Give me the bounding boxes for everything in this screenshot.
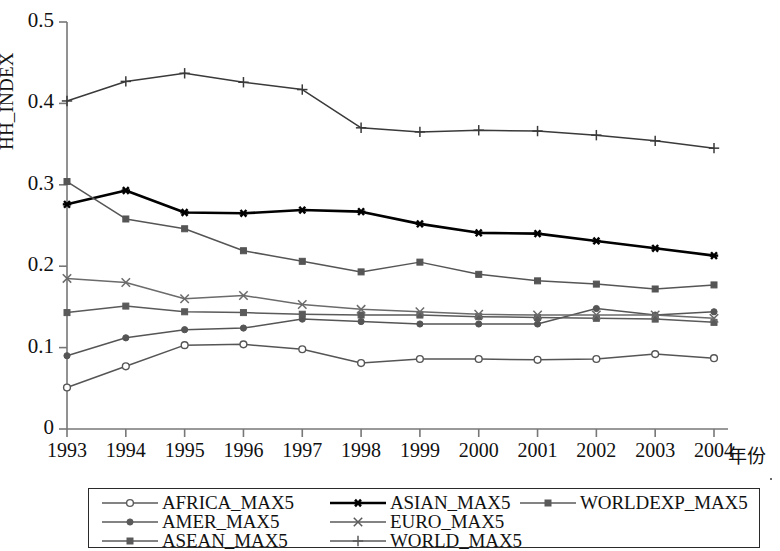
chart-legend: AFRICA_MAX5ASIAN_MAX5WORLDEXP_MAX5AMER_M… bbox=[88, 488, 760, 548]
series-world-max5 bbox=[62, 68, 719, 153]
marker-square-filled-icon bbox=[593, 281, 599, 287]
marker-square-filled-icon bbox=[123, 303, 129, 309]
marker-circle-filled-icon bbox=[240, 325, 246, 331]
marker-square-filled-icon bbox=[64, 310, 70, 316]
marker-circle-open-icon bbox=[122, 363, 129, 370]
marker-circle-open-icon bbox=[299, 346, 306, 353]
marker-circle-open-icon bbox=[534, 356, 541, 363]
marker-circle-open-icon bbox=[652, 351, 659, 358]
y-axis-tick-label: 0.3 bbox=[8, 171, 54, 196]
marker-circle-filled-icon bbox=[64, 353, 70, 359]
legend-item-euro-max5[interactable]: EURO_MAX5 bbox=[329, 512, 504, 531]
legend-marker-plus-icon bbox=[329, 533, 387, 548]
marker-circle-filled-icon bbox=[182, 327, 188, 333]
legend-marker-square-filled-icon bbox=[101, 533, 159, 548]
series-africa-max5 bbox=[64, 341, 718, 391]
legend-item-africa-max5[interactable]: AFRICA_MAX5 bbox=[101, 493, 294, 512]
marker-circle-filled-icon bbox=[534, 321, 540, 327]
marker-square-filled-icon bbox=[240, 248, 246, 254]
series-asian-max5 bbox=[63, 187, 718, 259]
legend-marker-square-filled-icon bbox=[519, 495, 577, 510]
legend-label: WORLDEXP_MAX5 bbox=[580, 492, 748, 514]
marker-circle-open-icon bbox=[417, 356, 424, 363]
marker-square-filled-icon bbox=[358, 312, 364, 318]
x-axis-title: 年份 bbox=[728, 441, 766, 468]
marker-circle-filled-icon bbox=[123, 335, 129, 341]
marker-circle-filled-icon bbox=[476, 321, 482, 327]
legend-item-worldexp-max5[interactable]: WORLDEXP_MAX5 bbox=[519, 493, 748, 512]
marker-circle-open-icon bbox=[475, 356, 482, 363]
legend-label: WORLD_MAX5 bbox=[390, 530, 522, 551]
marker-circle-open-icon bbox=[181, 342, 188, 349]
legend-item-world-max5[interactable]: WORLD_MAX5 bbox=[329, 531, 522, 550]
series-line bbox=[67, 73, 714, 148]
marker-square-filled-icon bbox=[64, 179, 70, 185]
marker-circle-open-icon bbox=[240, 341, 247, 348]
marker-square-filled-icon bbox=[182, 309, 188, 315]
marker-square-filled-icon bbox=[545, 500, 551, 506]
marker-square-filled-icon bbox=[652, 286, 658, 292]
marker-square-filled-icon bbox=[711, 282, 717, 288]
marker-circle-open-icon bbox=[358, 360, 365, 367]
legend-marker-x-cross-icon bbox=[329, 514, 387, 529]
marker-square-filled-icon bbox=[299, 258, 305, 264]
marker-square-filled-icon bbox=[476, 271, 482, 277]
marker-square-filled-icon bbox=[182, 226, 188, 232]
scan-speck bbox=[770, 478, 772, 480]
marker-circle-open-icon bbox=[64, 384, 71, 391]
marker-circle-filled-icon bbox=[417, 321, 423, 327]
legend-marker-circle-open-icon bbox=[101, 495, 159, 510]
series-line bbox=[67, 306, 714, 322]
legend-marker-circle-filled-icon bbox=[101, 514, 159, 529]
series-line bbox=[67, 278, 714, 318]
marker-circle-open-icon bbox=[711, 355, 718, 362]
marker-circle-open-icon bbox=[127, 500, 134, 507]
marker-square-filled-icon bbox=[123, 216, 129, 222]
legend-label: ASEAN_MAX5 bbox=[162, 530, 288, 551]
y-axis-tick-label: 0.5 bbox=[8, 8, 54, 33]
marker-square-filled-icon bbox=[417, 259, 423, 265]
marker-circle-open-icon bbox=[593, 356, 600, 363]
marker-square-filled-icon bbox=[127, 538, 133, 544]
y-axis-tick-label: 0.1 bbox=[8, 334, 54, 359]
chart-figure: HH_INDEX 0.50.40.30.20.10 19931994199519… bbox=[0, 0, 780, 551]
line-chart-plot-area bbox=[0, 0, 780, 470]
marker-square-filled-icon bbox=[535, 278, 541, 284]
y-axis-tick-label: 0.2 bbox=[8, 252, 54, 277]
series-amer-max5 bbox=[64, 305, 717, 358]
y-axis-tick-label: 0 bbox=[8, 415, 54, 440]
marker-circle-filled-icon bbox=[127, 519, 133, 525]
legend-item-asean-max5[interactable]: ASEAN_MAX5 bbox=[101, 531, 288, 550]
marker-square-filled-icon bbox=[358, 269, 364, 275]
series-line bbox=[67, 344, 714, 387]
marker-square-filled-icon bbox=[299, 311, 305, 317]
series-worldexp-max5 bbox=[64, 179, 717, 292]
legend-item-amer-max5[interactable]: AMER_MAX5 bbox=[101, 512, 279, 531]
marker-circle-filled-icon bbox=[358, 318, 364, 324]
series-line bbox=[67, 190, 714, 255]
series-line bbox=[67, 182, 714, 289]
marker-circle-filled-icon bbox=[593, 305, 599, 311]
legend-marker-asterisk-icon bbox=[329, 495, 387, 510]
y-axis-tick-label: 0.4 bbox=[8, 89, 54, 114]
marker-square-filled-icon bbox=[240, 310, 246, 316]
marker-circle-filled-icon bbox=[711, 309, 717, 315]
legend-item-asian-max5[interactable]: ASIAN_MAX5 bbox=[329, 493, 510, 512]
